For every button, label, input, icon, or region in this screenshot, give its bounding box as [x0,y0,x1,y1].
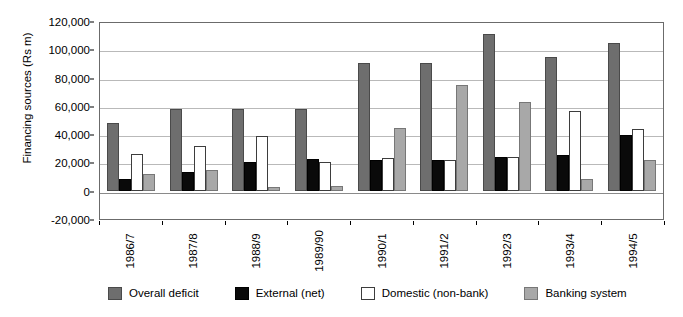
legend-swatch [235,287,249,300]
bar[interactable] [206,170,218,191]
y-axis-tick-mark [90,220,94,221]
bar-group [413,23,476,219]
bar[interactable] [581,179,593,191]
y-axis-tick-label: 100,000 [48,44,90,56]
x-axis-tick-mark [664,221,665,225]
bar[interactable] [307,159,319,191]
bar[interactable] [557,155,569,191]
bar[interactable] [495,157,507,191]
x-axis-label-cell: 1989/90 [287,221,350,281]
x-axis-tick-mark [287,221,288,225]
x-axis-tick-label: 1993/4 [564,233,576,268]
bar[interactable] [608,43,620,191]
y-axis-tick-mark [90,163,94,164]
bar[interactable] [456,85,468,191]
bar[interactable] [545,57,557,191]
bar[interactable] [268,187,280,191]
y-axis-tick-label: 120,000 [48,16,90,28]
y-axis-tick-mark [90,135,94,136]
bar[interactable] [331,186,343,191]
bar-group-bars [100,21,163,191]
x-axis-tick-mark [99,221,100,225]
x-axis-label-cell: 1988/9 [225,221,288,281]
x-axis-tick-label: 1991/2 [438,233,450,268]
x-axis-tick-label: 1989/90 [313,230,325,272]
y-axis-tick-mark [90,22,94,23]
bar[interactable] [119,179,131,191]
bar-group-bars [475,21,538,191]
bar[interactable] [382,158,394,191]
bar[interactable] [420,63,432,191]
y-axis-tick-label: 40,000 [55,129,90,141]
legend-swatch [108,287,122,300]
legend-label: Banking system [545,287,626,299]
bar[interactable] [444,160,456,190]
y-axis-tick-label: 80,000 [55,73,90,85]
bar[interactable] [370,160,382,190]
legend-item[interactable]: Banking system [524,287,626,300]
bar-group [100,23,163,219]
x-axis-label-cell: 1992/3 [476,221,539,281]
bar[interactable] [182,172,194,191]
bar[interactable] [256,136,268,191]
bar[interactable] [483,34,495,191]
legend-item[interactable]: External (net) [235,287,325,300]
bar-group-bars [288,21,351,191]
x-axis-label-cell: 1987/8 [162,221,225,281]
chart-legend: Overall deficitExternal (net)Domestic (n… [108,282,668,304]
legend-label: Overall deficit [129,287,199,299]
x-axis-tick-labels: 1986/71987/81988/91989/901990/11991/2199… [99,221,664,281]
bar-group [475,23,538,219]
x-axis-tick-label: 1986/7 [124,233,136,268]
bar-groups [100,23,663,219]
bar[interactable] [620,135,632,191]
x-axis-label-cell: 1986/7 [99,221,162,281]
bar[interactable] [170,109,182,190]
bar[interactable] [507,157,519,190]
legend-item[interactable]: Domestic (non-bank) [361,287,489,300]
financing-sources-bar-chart: Financing sources (Rs m) 120,000100,0008… [0,0,683,317]
y-axis-tick-label: 60,000 [55,101,90,113]
bar[interactable] [131,154,143,191]
x-axis-tick-mark [601,221,602,225]
x-axis-label-cell: 1990/1 [350,221,413,281]
x-axis-label-cell: 1991/2 [413,221,476,281]
bar-group-bars [350,21,413,191]
bar[interactable] [232,109,244,190]
x-axis-tick-mark [350,221,351,225]
bar[interactable] [632,129,644,191]
bar[interactable] [194,146,206,191]
bar[interactable] [569,111,581,191]
x-axis-tick-mark [162,221,163,225]
bar[interactable] [519,102,531,191]
x-axis-tick-label: 1990/1 [376,233,388,268]
x-axis-tick-mark [538,221,539,225]
legend-swatch [524,287,538,300]
y-axis-tick-mark [90,50,94,51]
bar-group [350,23,413,219]
bar-group [538,23,601,219]
y-axis-tick-mark [90,191,94,192]
bar[interactable] [358,63,370,190]
bar[interactable] [432,160,444,190]
legend-item[interactable]: Overall deficit [108,287,199,300]
bar[interactable] [394,128,406,191]
bar[interactable] [319,162,331,191]
bar[interactable] [244,162,256,191]
x-axis-tick-label: 1987/8 [187,233,199,268]
bar[interactable] [644,160,656,191]
legend-label: Domestic (non-bank) [382,287,489,299]
y-axis-tick-labels: 120,000100,00080,00060,00040,00020,0000-… [22,0,94,317]
y-axis-tick-label: -20,000 [51,214,90,226]
bar-group [601,23,664,219]
x-axis-tick-label: 1988/9 [250,233,262,268]
x-axis-label-cell: 1993/4 [538,221,601,281]
bar-group-bars [538,21,601,191]
x-axis-tick-label: 1992/3 [501,233,513,268]
y-axis-tick-label: 20,000 [55,157,90,169]
y-axis-tick-mark [90,106,94,107]
bar[interactable] [143,174,155,190]
bar[interactable] [295,109,307,191]
x-axis-tick-mark [413,221,414,225]
bar[interactable] [107,123,119,191]
